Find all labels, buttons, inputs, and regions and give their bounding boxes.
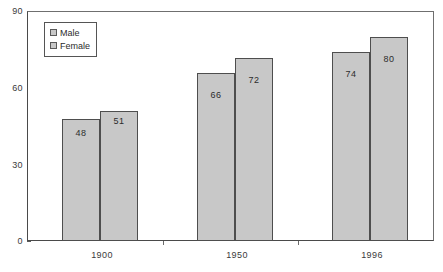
bar-value-1950-male: 66 xyxy=(199,91,233,100)
bar-value-1996-female: 80 xyxy=(372,55,406,64)
legend-swatch-icon-male xyxy=(50,29,57,36)
bar-value-1996-male: 74 xyxy=(334,70,368,79)
legend-item-female: Female xyxy=(50,39,90,52)
bar-1996-female xyxy=(370,37,408,241)
bar-1900-female xyxy=(100,111,138,241)
bar-value-1900-male: 48 xyxy=(64,129,98,138)
bar-chart: 90 60 30 0 48 51 66 72 74 80 1900 1950 1… xyxy=(0,0,443,272)
cropped-title-artifact xyxy=(0,2,443,7)
x-tick-mark-1 xyxy=(163,241,164,245)
bar-value-1950-female: 72 xyxy=(237,76,271,85)
bar-value-1900-female: 51 xyxy=(102,117,136,126)
x-tick-mark-2 xyxy=(298,241,299,245)
bar-1996-male xyxy=(332,52,370,241)
legend-swatch-icon-female xyxy=(50,42,57,49)
legend-item-male: Male xyxy=(50,26,90,39)
x-tick-label-1950: 1950 xyxy=(207,250,267,260)
y-axis: 90 60 30 0 xyxy=(0,0,23,272)
bar-1950-female xyxy=(235,58,273,241)
legend-label-male: Male xyxy=(60,28,80,38)
y-tick-label-60: 60 xyxy=(1,84,23,93)
legend-label-female: Female xyxy=(60,41,90,51)
y-tick-label-0: 0 xyxy=(1,237,23,246)
x-tick-label-1996: 1996 xyxy=(342,250,402,260)
y-tick-label-90: 90 xyxy=(1,7,23,16)
y-tick-mark-0 xyxy=(27,241,31,242)
y-tick-label-30: 30 xyxy=(1,161,23,170)
x-tick-label-1900: 1900 xyxy=(72,250,132,260)
legend: Male Female xyxy=(44,22,97,57)
